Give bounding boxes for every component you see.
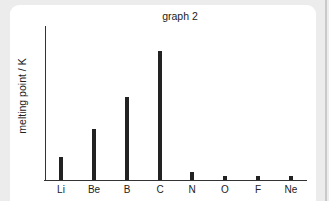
x-tick-label: N	[177, 184, 207, 195]
bar-be	[92, 129, 96, 180]
bar-f	[256, 176, 260, 180]
chart-title: graph 2	[150, 10, 210, 22]
x-tick-label: F	[243, 184, 273, 195]
x-tick-label: B	[112, 184, 142, 195]
bar-li	[59, 157, 63, 180]
chart-panel	[10, 5, 316, 201]
x-tick-label: C	[145, 184, 175, 195]
window-edge-divider	[325, 0, 327, 201]
y-axis-line	[45, 26, 46, 180]
bar-c	[158, 51, 162, 180]
bar-b	[125, 97, 129, 180]
bar-o	[223, 176, 227, 180]
x-tick-label: Li	[46, 184, 76, 195]
x-tick-label: Ne	[276, 184, 306, 195]
x-axis-line	[44, 180, 307, 181]
bar-ne	[289, 176, 293, 180]
bar-n	[190, 172, 194, 180]
x-tick-label: O	[210, 184, 240, 195]
y-axis-label: melting point / K	[16, 58, 28, 133]
x-tick-label: Be	[79, 184, 109, 195]
